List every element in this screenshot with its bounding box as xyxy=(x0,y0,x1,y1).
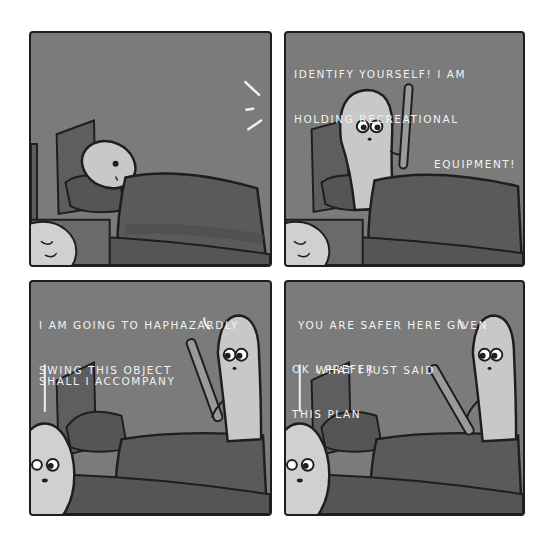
noise-lines-icon xyxy=(245,82,261,129)
caption-line: EQUIPMENT! xyxy=(294,157,516,172)
caption-line: YOU ARE SAFER HERE GIVEN xyxy=(298,318,488,333)
caption-line: IDENTIFY YOURSELF! I AM xyxy=(294,67,516,82)
bed-scene-illustration xyxy=(31,33,270,265)
speech-caption: OK I PREFER THIS PLAN xyxy=(292,332,375,452)
comic-panel-2: IDENTIFY YOURSELF! I AM HOLDING RECREATI… xyxy=(284,31,525,267)
caption-line: OK I PREFER xyxy=(292,362,375,377)
caption-line: HOLDING RECREATIONAL xyxy=(294,112,516,127)
speech-caption: SHALL I ACCOMPANY xyxy=(39,344,176,419)
speech-caption: IDENTIFY YOURSELF! I AM HOLDING RECREATI… xyxy=(294,37,516,202)
caption-line: THIS PLAN xyxy=(292,407,375,422)
caption-line: SHALL I ACCOMPANY xyxy=(39,374,176,389)
caption-line: I AM GOING TO HAPHAZARDLY xyxy=(39,318,239,333)
comic-panel-4: YOU ARE SAFER HERE GIVEN WHAT I JUST SAI… xyxy=(284,280,525,516)
comic-panel-3: I AM GOING TO HAPHAZARDLY SWING THIS OBJ… xyxy=(29,280,272,516)
comic-panel-1 xyxy=(29,31,272,267)
